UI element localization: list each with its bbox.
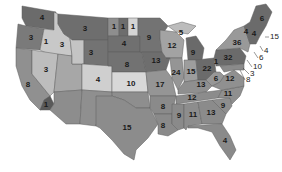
state-vote-label-nc: 11 [224,89,233,98]
state-vote-label-ms: 9 [177,111,182,120]
state-vote-label-id: 1 [44,37,49,46]
state-vote-label-mi: 9 [191,48,196,57]
state-vote-label-wy: 3 [60,40,65,49]
state-vote-label-mi-upper: 5 [179,28,184,37]
state-vote-label-tn: 12 [188,93,197,102]
state-vote-label-wi: 12 [168,41,177,50]
state-vote-label-nd-a: 1 [112,22,117,31]
state-vote-label-wa: 4 [40,13,45,22]
state-vote-label-oh: 22 [203,64,212,73]
state-vote-label-sd: 3 [89,48,94,57]
callout-leader-line [254,52,258,58]
callout-vote-label-md: 8 [246,75,251,84]
state-vote-label-az: 1 [44,100,49,109]
state-vote-label-fl: 4 [223,136,228,145]
state-vote-label-or: 3 [29,33,34,42]
state-vote-label-la: 8 [161,121,166,130]
callout-leader-line [240,70,245,80]
state-vote-label-ks: 10 [127,79,136,88]
state-vote-label-nd-b: 1 [121,22,126,31]
state-vote-label-ia: 13 [152,56,161,65]
callout-vote-label-de: 3 [250,69,255,78]
callout-leader-line [247,60,252,67]
state-vote-label-al: 11 [189,110,198,119]
state-vote-label-nd-c: 1 [131,22,136,31]
state-vote-label-in: 15 [187,67,196,76]
state-vote-label-me: 6 [260,14,265,23]
state-vote-label-nh: 4 [252,29,257,38]
state-vote-label-ca: 8 [26,80,31,89]
state-vote-label-ne-upper: 4 [122,39,127,48]
callout-vote-label-ri: 4 [264,46,269,55]
state-vote-label-nv: 3 [44,65,49,74]
state-vote-label-vt: 4 [244,27,249,36]
state-vote-label-mn: 9 [147,33,152,42]
state-vote-label-sc: 9 [221,101,226,110]
state-vote-label-ga: 13 [207,108,216,117]
state-vote-label-mo: 17 [156,80,165,89]
state-vote-label-pa: 32 [224,53,233,62]
state-vote-label-va: 12 [226,74,235,83]
callout-leader-line [243,68,249,74]
state-vote-label-wv: 6 [214,74,219,83]
state-vote-label-tx: 15 [123,123,132,132]
state-vote-label-il: 24 [172,68,181,77]
callout-vote-label-ma: 15 [270,32,279,41]
state-vote-label-ny: 36 [233,38,242,47]
callout-vote-label-ct: 6 [259,53,264,62]
vote-labels: 4313111334384108115913178812592415221136… [0,0,282,172]
state-vote-label-wv-1: 1 [214,57,219,66]
state-vote-label-ky: 13 [197,80,206,89]
state-vote-label-ne: 8 [125,60,130,69]
callout-leader-line [260,46,263,51]
state-vote-label-ar: 8 [161,102,166,111]
state-vote-label-mt: 3 [83,24,88,33]
state-vote-label-co: 4 [96,75,101,84]
